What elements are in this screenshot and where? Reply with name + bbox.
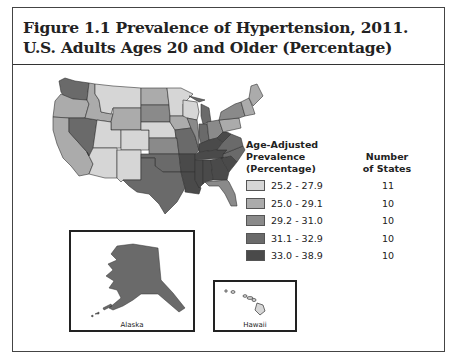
- legend-swatch: [246, 180, 265, 191]
- legend-item: 25.0 - 29.110: [246, 198, 436, 212]
- hawaii-label: Hawaii: [243, 321, 267, 329]
- alaska-label: Alaska: [121, 321, 144, 329]
- legend-item: 33.0 - 38.910: [246, 250, 436, 264]
- legend-count: 11: [378, 180, 398, 192]
- region-north-dakota: [141, 88, 169, 105]
- region-pennsylvania: [219, 118, 241, 132]
- region-colorado: [121, 130, 149, 150]
- legend-range: 25.2 - 27.9: [271, 180, 323, 192]
- legend-swatch: [246, 215, 265, 226]
- legend-item: 29.2 - 31.010: [246, 215, 436, 229]
- region-maine: [249, 84, 263, 106]
- legend-count: 10: [378, 215, 398, 227]
- legend-count: 10: [378, 250, 398, 262]
- legend-item: 25.2 - 27.911: [246, 180, 436, 194]
- legend-swatch: [246, 233, 265, 244]
- region-arkansas: [179, 154, 195, 172]
- legend-range: 25.0 - 29.1: [271, 198, 323, 210]
- region-new-mexico: [117, 150, 141, 182]
- figure-frame: Figure 1.1 Prevalence of Hypertension, 2…: [12, 7, 445, 352]
- region-wisconsin: [183, 100, 199, 120]
- legend-range: 29.2 - 31.0: [271, 215, 323, 227]
- legend-count-title: Number of States: [352, 151, 422, 175]
- legend-range: 31.1 - 32.9: [271, 233, 323, 245]
- region-new-york: [219, 102, 245, 120]
- region-south-dakota: [141, 105, 170, 122]
- legend-count: 10: [378, 198, 398, 210]
- region-kansas: [149, 138, 179, 154]
- region-wyoming: [111, 108, 141, 130]
- legend-item: 31.1 - 32.910: [246, 233, 436, 247]
- legend-swatch: [246, 250, 265, 261]
- region-florida: [205, 180, 237, 206]
- legend-title: Age-Adjusted Prevalence (Percentage): [246, 139, 356, 175]
- legend-swatch: [246, 198, 265, 209]
- legend-range: 33.0 - 38.9: [271, 250, 323, 262]
- legend-count: 10: [378, 233, 398, 245]
